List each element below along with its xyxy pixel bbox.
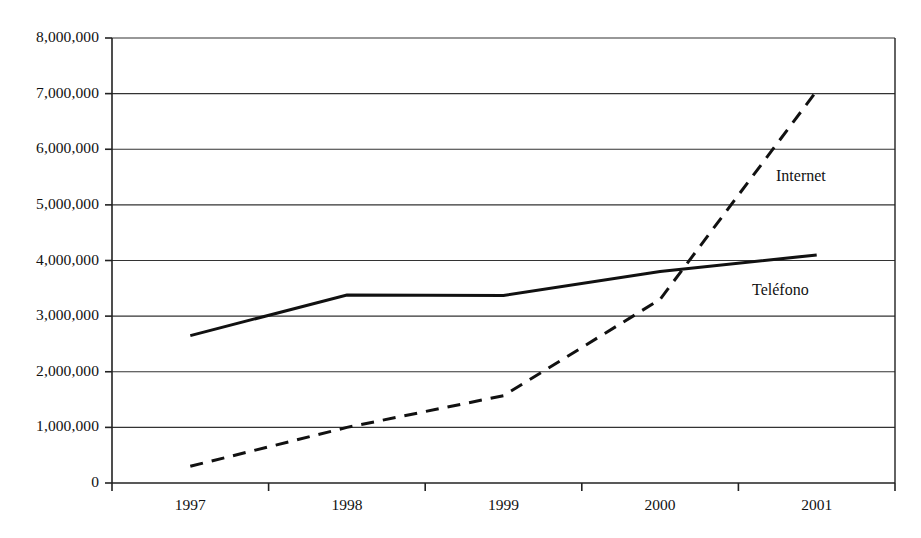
- gridlines-group: [112, 38, 895, 427]
- y-axis-tick-label: 2,000,000: [36, 362, 99, 380]
- x-axis-tick-label: 1997: [150, 496, 230, 514]
- series-annotation-internet: Internet: [776, 167, 826, 185]
- y-axis-tick-label: 5,000,000: [36, 195, 99, 213]
- y-axis-tick-label: 0: [91, 473, 99, 491]
- x-axis-tick-label: 1998: [307, 496, 387, 514]
- x-axis-tick-label: 1999: [464, 496, 544, 514]
- x-axis-tick-label: 2000: [620, 496, 700, 514]
- series-lines-group: [190, 91, 816, 467]
- y-axis-tick-label: 3,000,000: [36, 306, 99, 324]
- y-axis-tick-label: 7,000,000: [36, 84, 99, 102]
- x-axis-ticks-group: [112, 483, 895, 491]
- y-axis-tick-label: 8,000,000: [36, 28, 99, 46]
- series-line-telefono: [190, 255, 816, 336]
- x-axis-tick-label: 2001: [777, 496, 857, 514]
- chart-container: 01,000,0002,000,0003,000,0004,000,0005,0…: [0, 0, 921, 538]
- series-annotation-telefono: Teléfono: [752, 281, 809, 299]
- y-axis-tick-label: 4,000,000: [36, 251, 99, 269]
- y-axis-tick-label: 6,000,000: [36, 139, 99, 157]
- series-line-internet: [190, 91, 816, 467]
- y-axis-ticks-group: [105, 38, 112, 483]
- line-chart-canvas: [0, 0, 921, 538]
- y-axis-tick-label: 1,000,000: [36, 417, 99, 435]
